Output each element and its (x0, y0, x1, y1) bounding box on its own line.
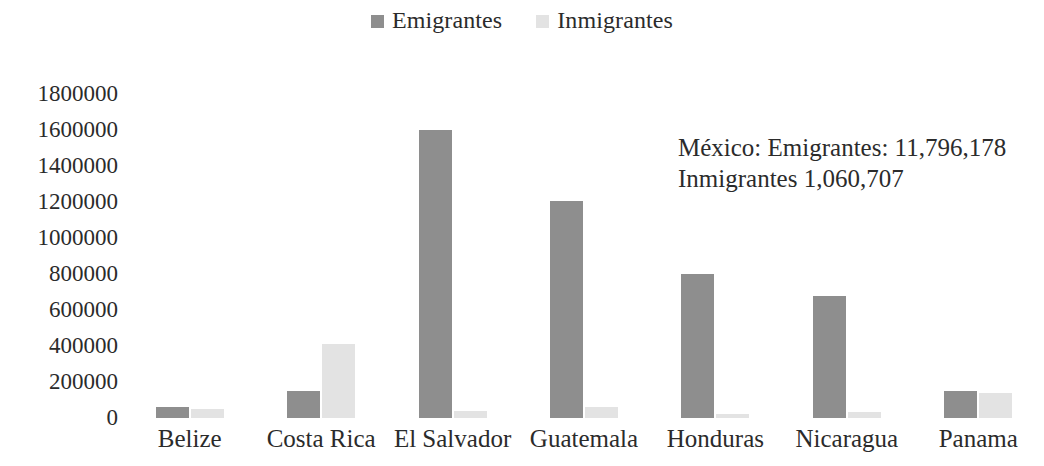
y-axis-tick-label: 1400000 (0, 154, 118, 177)
x-axis-tick-label: Guatemala (518, 424, 649, 454)
x-axis-tick-label: Panama (913, 424, 1044, 454)
x-axis: BelizeCosta RicaEl SalvadorGuatemalaHond… (124, 424, 1044, 454)
y-axis: 1800000160000014000001200000100000080000… (0, 0, 118, 466)
y-axis-tick-label: 1800000 (0, 82, 118, 105)
bar-group (518, 94, 649, 418)
bar-emigrantes[interactable] (419, 130, 452, 418)
bar-emigrantes[interactable] (681, 274, 714, 418)
bar-group (387, 94, 518, 418)
plot-area: 1800000160000014000001200000100000080000… (0, 0, 1044, 466)
bar-inmigrantes[interactable] (585, 407, 618, 418)
bar-group (124, 94, 255, 418)
x-axis-tick-label: Nicaragua (781, 424, 912, 454)
bar-emigrantes[interactable] (156, 407, 189, 418)
bar-emigrantes[interactable] (944, 391, 977, 418)
bar-emigrantes[interactable] (287, 391, 320, 418)
y-axis-tick-label: 800000 (0, 262, 118, 285)
bar-chart: Emigrantes Inmigrantes 18000001600000140… (0, 0, 1044, 466)
bar-emigrantes[interactable] (813, 296, 846, 418)
bar-inmigrantes[interactable] (454, 411, 487, 418)
bar-inmigrantes[interactable] (716, 414, 749, 419)
annotation-line-1: México: Emigrantes: 11,796,178 (678, 132, 1006, 163)
y-axis-tick-label: 400000 (0, 334, 118, 357)
x-axis-tick-label: El Salvador (387, 424, 518, 454)
y-axis-tick-label: 200000 (0, 370, 118, 393)
bar-inmigrantes[interactable] (979, 393, 1012, 418)
bar-inmigrantes[interactable] (848, 412, 881, 418)
bar-inmigrantes[interactable] (191, 409, 224, 418)
y-axis-tick-label: 600000 (0, 298, 118, 321)
x-axis-tick-label: Belize (124, 424, 255, 454)
y-axis-tick-label: 1000000 (0, 226, 118, 249)
annotation-line-2: Inmigrantes 1,060,707 (678, 163, 1006, 194)
bar-emigrantes[interactable] (550, 201, 583, 418)
bar-inmigrantes[interactable] (322, 344, 355, 418)
mexico-annotation: México: Emigrantes: 11,796,178 Inmigrant… (678, 132, 1006, 194)
x-axis-tick-label: Costa Rica (255, 424, 386, 454)
y-axis-tick-label: 0 (0, 406, 118, 429)
bar-group (255, 94, 386, 418)
y-axis-tick-label: 1200000 (0, 190, 118, 213)
y-axis-tick-label: 1600000 (0, 118, 118, 141)
x-axis-tick-label: Honduras (650, 424, 781, 454)
